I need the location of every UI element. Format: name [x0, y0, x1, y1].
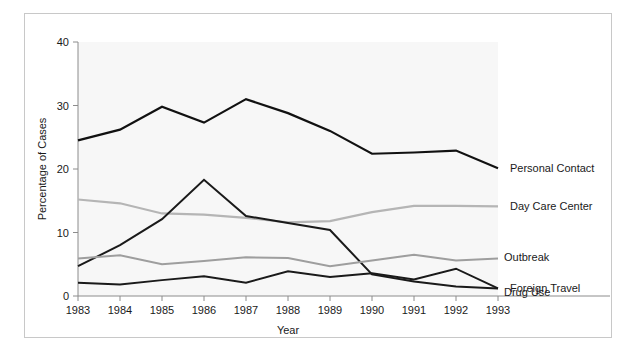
series-label-day-care-center: Day Care Center [510, 200, 593, 212]
x-tick-label: 1993 [486, 304, 510, 316]
x-axis-ticks: 1983198419851986198719881989199019911992… [66, 296, 510, 316]
y-tick-label: 10 [57, 227, 69, 239]
x-tick-label: 1983 [66, 304, 90, 316]
series-label-outbreak: Outbreak [504, 251, 550, 263]
y-tick-label: 20 [57, 163, 69, 175]
y-axis-title: Percentage of Cases [36, 117, 48, 220]
x-tick-label: 1991 [402, 304, 426, 316]
x-tick-label: 1986 [192, 304, 216, 316]
x-tick-label: 1985 [150, 304, 174, 316]
x-tick-label: 1988 [276, 304, 300, 316]
x-tick-label: 1990 [360, 304, 384, 316]
x-tick-label: 1984 [108, 304, 132, 316]
x-tick-label: 1987 [234, 304, 258, 316]
y-tick-label: 0 [63, 290, 69, 302]
line-chart: 010203040 198319841985198619871988198919… [0, 0, 635, 359]
y-tick-label: 40 [57, 36, 69, 48]
series-label-personal-contact: Personal Contact [510, 162, 594, 174]
series-label-drug-use: Drug Use [504, 286, 550, 298]
y-axis-ticks: 010203040 [57, 36, 78, 302]
x-axis-title: Year [277, 324, 300, 336]
series-labels-group: Personal ContactDay Care CenterForeign T… [504, 162, 594, 298]
x-tick-label: 1989 [318, 304, 342, 316]
y-tick-label: 30 [57, 100, 69, 112]
x-tick-label: 1992 [444, 304, 468, 316]
